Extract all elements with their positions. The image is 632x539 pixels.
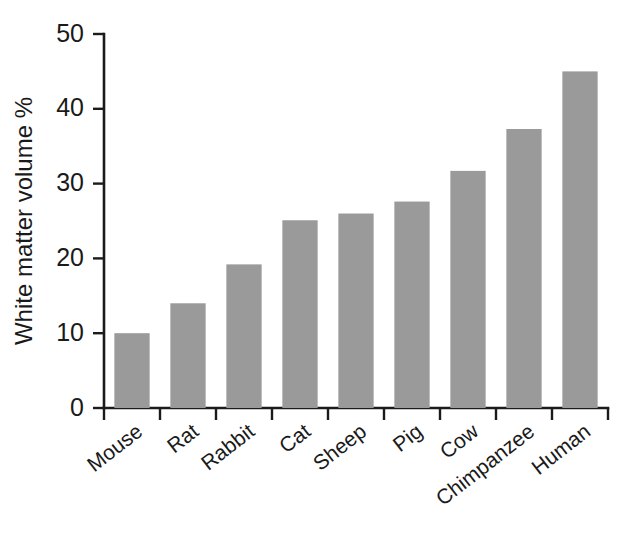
bar [226,264,261,408]
y-tick-label: 0 [70,393,84,421]
bar [114,333,149,408]
bar [450,171,485,408]
y-tick-label: 10 [56,318,84,346]
bar [282,220,317,408]
y-axis-title: White matter volume % [10,97,37,345]
y-tick-label: 30 [56,168,84,196]
y-tick-label: 20 [56,243,84,271]
y-tick-label: 50 [56,19,84,47]
bar [338,214,373,408]
bar [562,71,597,408]
bar [506,129,541,408]
bar-chart-figure: White matter volume % 01020304050 MouseR… [0,0,632,539]
bar [394,202,429,408]
chart-canvas: White matter volume % 01020304050 MouseR… [0,0,632,539]
bar [170,303,205,408]
y-tick-label: 40 [56,93,84,121]
